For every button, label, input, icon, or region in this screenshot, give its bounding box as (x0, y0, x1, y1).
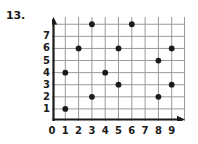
data-point (89, 94, 95, 100)
x-tick-label: 4 (99, 126, 111, 136)
plot-area (52, 17, 185, 121)
x-tick-label: 7 (139, 126, 151, 136)
x-tick-label: 0 (46, 126, 58, 136)
x-axis-arrow-icon (177, 116, 185, 121)
y-tick-label: 7 (43, 31, 50, 41)
x-tick-label: 2 (73, 126, 85, 136)
y-axis-arrow-icon (52, 17, 57, 25)
data-point (129, 21, 135, 27)
y-tick-label: 1 (43, 104, 50, 114)
y-tick-label: 6 (43, 43, 50, 53)
data-point (169, 82, 175, 88)
x-tick-label: 5 (113, 126, 125, 136)
x-tick-label: 3 (86, 126, 98, 136)
data-point (116, 46, 122, 52)
x-tick-label: 8 (152, 126, 164, 136)
y-tick-label: 4 (43, 68, 50, 78)
data-point (76, 46, 82, 52)
scatter-grid-and-points (52, 17, 185, 121)
data-point (89, 21, 95, 27)
data-point (62, 106, 68, 112)
data-point (102, 70, 108, 76)
y-tick-label: 2 (43, 92, 50, 102)
y-tick-label: 3 (43, 80, 50, 90)
data-point (156, 94, 162, 100)
data-point (116, 82, 122, 88)
y-axis-tick-labels: 1234567 (36, 17, 50, 121)
x-tick-label: 9 (166, 126, 178, 136)
data-point (156, 58, 162, 64)
data-point (62, 70, 68, 76)
y-tick-label: 5 (43, 56, 50, 66)
data-point (169, 46, 175, 52)
problem-number-label: 13. (6, 9, 25, 22)
x-tick-label: 1 (59, 126, 71, 136)
x-tick-label: 6 (126, 126, 138, 136)
scatter-plot-figure: 13. 1234567 0123456789 (0, 0, 198, 144)
x-axis-tick-labels: 0123456789 (0, 126, 198, 140)
